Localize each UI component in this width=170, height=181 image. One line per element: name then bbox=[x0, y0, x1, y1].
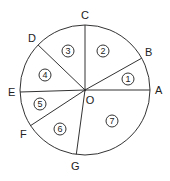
point-label-d: D bbox=[28, 32, 36, 44]
center-point bbox=[84, 89, 86, 91]
sector-diagram: ABCDEFG 1234567 O bbox=[0, 0, 170, 181]
region-marker-3: 3 bbox=[62, 45, 74, 57]
region-marker-2: 2 bbox=[97, 45, 109, 57]
point-label-c: C bbox=[81, 9, 89, 21]
point-label-e: E bbox=[8, 86, 15, 98]
region-number-1: 1 bbox=[125, 74, 130, 84]
region-number-6: 6 bbox=[57, 124, 62, 134]
region-marker-5: 5 bbox=[34, 98, 46, 110]
radius-og bbox=[76, 90, 85, 154]
point-label-g: G bbox=[71, 160, 80, 172]
region-marker-6: 6 bbox=[54, 123, 66, 135]
radius-oe bbox=[20, 90, 85, 92]
point-label-f: F bbox=[20, 128, 27, 140]
center-label-o: O bbox=[86, 94, 95, 106]
region-marker-1: 1 bbox=[122, 73, 134, 85]
point-label-a: A bbox=[155, 84, 163, 96]
region-number-2: 2 bbox=[100, 46, 105, 56]
region-number-4: 4 bbox=[42, 70, 47, 80]
region-number-7: 7 bbox=[109, 116, 114, 126]
region-marker-7: 7 bbox=[106, 115, 118, 127]
point-label-b: B bbox=[145, 46, 152, 58]
region-number-5: 5 bbox=[37, 99, 42, 109]
radius-ob bbox=[85, 58, 142, 90]
region-number-3: 3 bbox=[65, 46, 70, 56]
region-marker-4: 4 bbox=[39, 69, 51, 81]
